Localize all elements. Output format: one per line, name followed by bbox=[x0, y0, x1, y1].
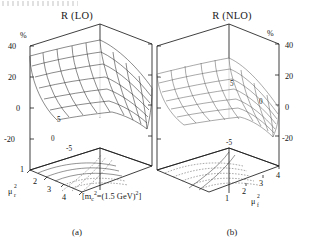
y-tick-nlo-1: 0 bbox=[259, 98, 263, 106]
panel-lo: R (LO) bbox=[0, 0, 154, 245]
x-axis-label-nlo: μ f 2 bbox=[251, 193, 260, 208]
surface-mesh-lo bbox=[30, 40, 152, 129]
mass-annotation: [mc2=(1.5 GeV)2] bbox=[82, 190, 141, 202]
y-tick-nlo-0: 5 bbox=[230, 80, 234, 88]
x-tick-lo-0: 1 bbox=[20, 165, 24, 174]
x-axis-label-lo: μ r 2 bbox=[8, 183, 17, 198]
z-tick-nlo-0: 40 bbox=[285, 41, 293, 50]
panel-lo-plot: % 40 20 0 -20 5 0 -5 1 2 3 4 μ r 2 bbox=[0, 0, 154, 245]
y-tick-lo-2: -5 bbox=[66, 145, 72, 153]
y-tick-nlo-2: -5 bbox=[226, 139, 232, 147]
y-tick-lo-0: 5 bbox=[57, 116, 61, 124]
caption-prefix: [m bbox=[82, 192, 91, 201]
x-tick-nlo-3: 4 bbox=[276, 171, 280, 180]
y-tick-lo-1: 0 bbox=[51, 135, 55, 143]
z-ticks-nlo bbox=[275, 44, 279, 136]
x-tick-nlo-0: 1 bbox=[225, 194, 229, 203]
svg-text:r: r bbox=[14, 192, 16, 198]
x-tick-nlo-2: 3 bbox=[259, 179, 263, 188]
z-tick-nlo-2: 0 bbox=[285, 103, 289, 112]
z-tick-lo-3: -20 bbox=[4, 135, 15, 144]
z-tick-lo-2: 0 bbox=[16, 104, 20, 113]
caption-mid: =(1.5 GeV) bbox=[97, 192, 136, 201]
panel-nlo-label: (b) bbox=[155, 227, 309, 237]
svg-text:μ: μ bbox=[8, 187, 13, 196]
z-unit-nlo: % bbox=[267, 29, 274, 38]
svg-text:2: 2 bbox=[257, 193, 260, 199]
x-tick-lo-3: 4 bbox=[62, 193, 66, 202]
panel-nlo-plot: % 40 20 0 -20 5 0 -5 1 2 3 4 μ f 2 bbox=[155, 0, 309, 245]
x-tick-lo-1: 2 bbox=[33, 177, 37, 186]
z-ticks-nlo-left bbox=[157, 46, 161, 139]
z-tick-lo-0: 40 bbox=[8, 42, 16, 51]
x-ticks-nlo bbox=[229, 166, 279, 193]
svg-text:f: f bbox=[257, 202, 259, 208]
x-tick-nlo-1: 2 bbox=[242, 187, 246, 196]
z-unit-lo: % bbox=[20, 31, 27, 40]
z-ticks-lo bbox=[30, 46, 34, 139]
z-tick-nlo-1: 20 bbox=[285, 72, 293, 81]
caption-suffix: ] bbox=[138, 192, 141, 201]
panel-nlo: R (NLO) bbox=[155, 0, 309, 245]
svg-text:μ: μ bbox=[251, 197, 256, 206]
figure-root: R (LO) bbox=[0, 0, 309, 245]
x-tick-lo-2: 3 bbox=[47, 185, 51, 194]
caption-sub: c bbox=[91, 196, 94, 202]
z-tick-lo-1: 20 bbox=[8, 73, 16, 82]
svg-text:2: 2 bbox=[14, 183, 17, 189]
panel-lo-label: (a) bbox=[0, 227, 154, 237]
z-tick-nlo-3: -20 bbox=[282, 134, 293, 143]
